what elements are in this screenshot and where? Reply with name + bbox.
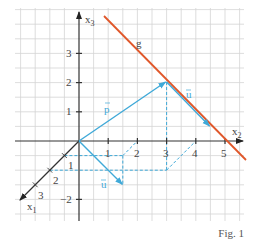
x1-tick-1: 1	[68, 159, 74, 171]
x2-tick-3: 3	[163, 147, 169, 159]
axes	[15, 12, 243, 221]
x2-axis-label: x2	[232, 125, 242, 140]
x1-tick-3: 3	[38, 189, 44, 201]
x3-tick-3: 3	[66, 47, 72, 59]
coordinate-figure: x3 x2 x1 1 2 3 −2 1 2 3 4 5 1 2 3 g p u …	[0, 0, 256, 248]
x3-axis-label: x3	[85, 13, 95, 28]
line-g-label: g	[136, 37, 142, 49]
figure-caption: Fig. 1	[218, 227, 244, 239]
x2-tick-5: 5	[221, 147, 227, 159]
x3-tick-2: 2	[66, 76, 72, 88]
vector-u-label-upper: u	[186, 88, 192, 100]
x2-tick-1: 1	[105, 147, 111, 159]
x3-tick-1: 1	[66, 105, 72, 117]
x1-tick-2: 2	[53, 174, 59, 186]
grid	[15, 8, 244, 221]
vector-u-label-lower: u	[101, 178, 107, 190]
svg-text:p: p	[104, 103, 110, 115]
x2-tick-4: 4	[192, 147, 198, 159]
x2-tick-2: 2	[134, 147, 140, 159]
vector-p-label: p	[104, 103, 110, 115]
x3-tick-neg2: −2	[60, 193, 72, 205]
